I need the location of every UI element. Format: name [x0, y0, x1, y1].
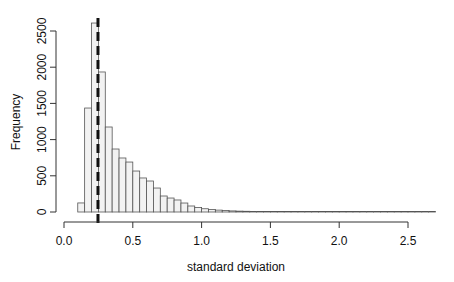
histogram-bar	[126, 162, 133, 212]
x-tick-label: 2.5	[400, 234, 417, 248]
histogram-bar	[339, 211, 346, 212]
y-tick-label: 2000	[35, 54, 49, 81]
histogram-bar	[133, 171, 140, 212]
histogram-bar	[167, 198, 174, 212]
histogram-bar	[264, 211, 271, 212]
histogram-bars	[78, 23, 436, 212]
histogram-bar	[387, 211, 394, 212]
histogram-bar	[112, 149, 119, 212]
histogram-bar	[319, 211, 326, 212]
histogram-bar	[353, 211, 360, 212]
histogram-bar	[202, 209, 209, 212]
y-tick-label: 0	[35, 208, 49, 215]
y-tick-label: 2500	[35, 17, 49, 44]
histogram-bar	[270, 211, 277, 212]
histogram-bar	[105, 127, 112, 212]
y-tick-label: 1000	[35, 126, 49, 153]
x-axis-title: standard deviation	[187, 260, 285, 274]
histogram-bar	[188, 206, 195, 212]
histogram-bar	[243, 211, 250, 212]
histogram-bar	[298, 211, 305, 212]
histogram-bar	[229, 211, 236, 212]
histogram-bar	[380, 211, 387, 212]
histogram-bar	[360, 211, 367, 212]
histogram-bar	[325, 211, 332, 212]
histogram-bar	[332, 211, 339, 212]
histogram-bar	[215, 210, 222, 212]
histogram-bar	[160, 196, 167, 212]
histogram-bar	[222, 211, 229, 212]
histogram-bar	[291, 211, 298, 212]
histogram-bar	[181, 203, 188, 212]
x-axis: 0.00.51.01.52.02.5	[56, 222, 417, 248]
x-tick-label: 0.0	[56, 234, 73, 248]
histogram-bar	[305, 211, 312, 212]
histogram-chart: 0.00.51.01.52.02.5 05001000150020002500 …	[0, 0, 454, 282]
x-tick-label: 2.0	[331, 234, 348, 248]
y-tick-label: 500	[35, 165, 49, 185]
histogram-bar	[394, 211, 401, 212]
histogram-bar	[119, 158, 126, 212]
histogram-bar	[415, 211, 422, 212]
y-tick-label: 1500	[35, 90, 49, 117]
histogram-bar	[78, 203, 85, 212]
histogram-bar	[284, 211, 291, 212]
histogram-bar	[401, 211, 408, 212]
histogram-bar	[195, 208, 202, 212]
x-tick-label: 1.5	[262, 234, 279, 248]
x-tick-label: 1.0	[193, 234, 210, 248]
histogram-bar	[367, 211, 374, 212]
histogram-bar	[208, 209, 215, 212]
histogram-bar	[85, 108, 92, 212]
histogram-bar	[236, 211, 243, 212]
y-axis: 05001000150020002500	[35, 17, 56, 215]
histogram-bar	[147, 181, 154, 212]
histogram-bar	[140, 178, 147, 212]
histogram-bar	[312, 211, 319, 212]
histogram-bar	[174, 200, 181, 212]
histogram-bar	[153, 188, 160, 212]
histogram-bar	[257, 211, 264, 212]
histogram-bar	[250, 211, 257, 212]
y-axis-title: Frequency	[9, 94, 23, 151]
histogram-bar	[429, 211, 436, 212]
x-tick-label: 0.5	[124, 234, 141, 248]
histogram-bar	[408, 211, 415, 212]
histogram-bar	[374, 211, 381, 212]
histogram-bar	[277, 211, 284, 212]
histogram-bar	[422, 211, 429, 212]
histogram-bar	[346, 211, 353, 212]
